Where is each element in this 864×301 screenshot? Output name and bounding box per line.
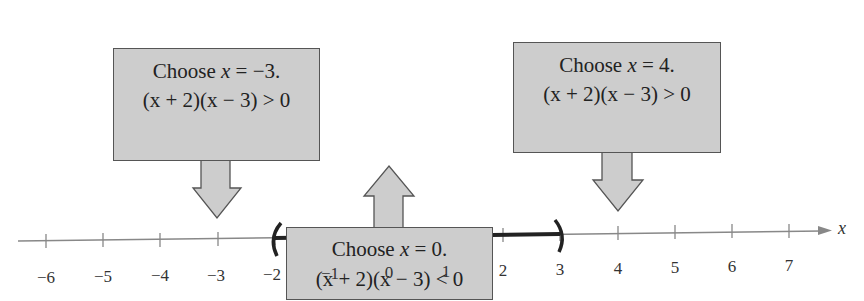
callout-box-test-4: Choose x = 4. (x + 2)(x − 3) > 0	[513, 42, 721, 153]
up-arrow-icon	[364, 166, 414, 228]
callout-line2: (x + 2)(x − 3) > 0	[514, 80, 720, 109]
tick-label: 6	[728, 257, 737, 277]
tick-label: −4	[151, 266, 169, 286]
tick-label: 3	[556, 260, 565, 280]
tick-label: −5	[94, 267, 112, 287]
callout-line1: Choose x = 4.	[514, 51, 720, 80]
tick-label: 7	[785, 256, 794, 276]
callout-box-test-minus-3: Choose x = −3. (x + 2)(x − 3) > 0	[113, 48, 320, 161]
axis-variable-label: x	[838, 218, 846, 239]
down-arrow-icon	[593, 152, 643, 211]
tick-label: 0	[385, 263, 394, 283]
tick-label: −6	[37, 268, 55, 288]
tick-label: 1	[442, 262, 451, 282]
tick-label: 5	[671, 258, 680, 278]
tick-label: 2	[499, 261, 508, 281]
callout-line1: Choose x = −3.	[114, 57, 319, 86]
callout-line2: (x + 2)(x − 3) > 0	[114, 86, 319, 115]
tick-label: −2	[263, 265, 281, 285]
tick-label: 4	[614, 259, 623, 279]
callout-line1: Choose x = 0.	[287, 234, 492, 264]
tick-label: −3	[207, 266, 225, 286]
tick-label: −1	[321, 264, 339, 284]
axis-arrowhead-icon	[818, 226, 832, 235]
down-arrow-icon	[193, 160, 241, 218]
